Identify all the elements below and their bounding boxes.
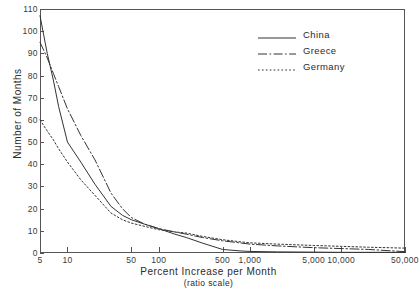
series-line-greece [40, 42, 405, 251]
legend-swatch-china [258, 29, 296, 39]
legend-item-china[interactable]: China [258, 26, 345, 42]
x-axis-title: Percent Increase per Month [0, 266, 417, 277]
legend-item-greece[interactable]: Greece [258, 42, 345, 58]
legend-swatch-germany [258, 61, 296, 71]
legend-label: China [303, 29, 330, 40]
legend-label: Germany [303, 61, 345, 72]
chart-legend: ChinaGreeceGermany [258, 26, 345, 74]
legend-swatch-greece [258, 45, 296, 55]
legend-label: Greece [303, 45, 337, 56]
x-axis-subtitle: (ratio scale) [0, 278, 417, 288]
y-axis-title: Number of Months [12, 54, 23, 174]
series-line-china [40, 16, 405, 253]
legend-item-germany[interactable]: Germany [258, 58, 345, 74]
